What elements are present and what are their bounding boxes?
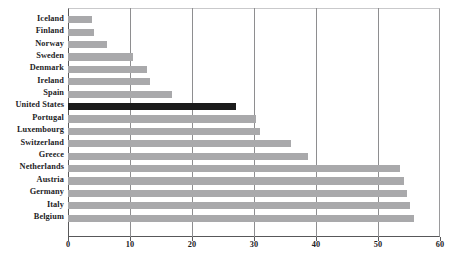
bar	[68, 78, 150, 85]
horizontal-bar-chart: IcelandFinlandNorwaySwedenDenmarkIreland…	[0, 0, 453, 256]
bar	[68, 53, 133, 60]
category-axis-labels: IcelandFinlandNorwaySwedenDenmarkIreland…	[0, 8, 64, 237]
value-axis-labels: 0102030405060	[0, 240, 453, 254]
bar	[68, 103, 236, 111]
x-tick-label: 10	[126, 240, 134, 249]
bar	[68, 165, 400, 172]
bar	[68, 41, 107, 48]
bar	[68, 190, 407, 197]
bars-container	[68, 8, 440, 237]
bar	[68, 202, 410, 209]
bar	[68, 115, 256, 122]
bar	[68, 177, 404, 184]
x-tick-label: 60	[436, 240, 444, 249]
x-tick-label: 40	[312, 240, 320, 249]
x-tick-label: 30	[250, 240, 258, 249]
x-tick-label: 0	[66, 240, 70, 249]
bar	[68, 16, 92, 23]
bar	[68, 215, 414, 222]
bar	[68, 91, 172, 98]
category-label: Belgium	[0, 210, 64, 224]
bar	[68, 128, 260, 135]
bar	[68, 140, 291, 147]
bar-row	[68, 212, 440, 226]
x-tick-label: 50	[374, 240, 382, 249]
bar	[68, 29, 94, 36]
x-tick-label: 20	[188, 240, 196, 249]
bar	[68, 153, 308, 160]
bar	[68, 66, 147, 73]
